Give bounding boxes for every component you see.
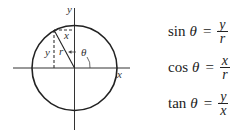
- cos-formula: cos θ = x r: [168, 52, 230, 82]
- equals-sign: =: [203, 23, 211, 40]
- theta-symbol: θ: [190, 23, 197, 40]
- denominator: x: [218, 104, 228, 117]
- fn-name: cos: [168, 59, 188, 76]
- fn-name: tan: [168, 95, 186, 112]
- r-label: r: [59, 45, 64, 57]
- y-leg-label: y: [44, 46, 50, 58]
- numerator: x: [220, 54, 230, 68]
- theta-symbol: θ: [192, 59, 199, 76]
- x-leg-label: x: [63, 29, 69, 41]
- y-axis-label: y: [66, 3, 72, 15]
- fraction: x r: [220, 54, 230, 81]
- fn-name: sin: [168, 23, 186, 40]
- theta-label: θ: [81, 46, 87, 58]
- tan-formula: tan θ = y x: [168, 88, 228, 118]
- numerator: y: [218, 90, 228, 104]
- equals-sign: =: [204, 95, 212, 112]
- equals-sign: =: [205, 59, 213, 76]
- sin-formula: sin θ = y r: [168, 16, 228, 46]
- arrow-head-icon: [68, 50, 72, 54]
- theta-symbol: θ: [190, 95, 197, 112]
- fraction: y r: [217, 18, 227, 45]
- denominator: r: [220, 68, 229, 81]
- angle-arc: [87, 57, 90, 68]
- numerator: y: [217, 18, 227, 32]
- fraction: y x: [218, 90, 228, 117]
- x-axis-label: x: [116, 68, 122, 80]
- denominator: r: [218, 32, 227, 45]
